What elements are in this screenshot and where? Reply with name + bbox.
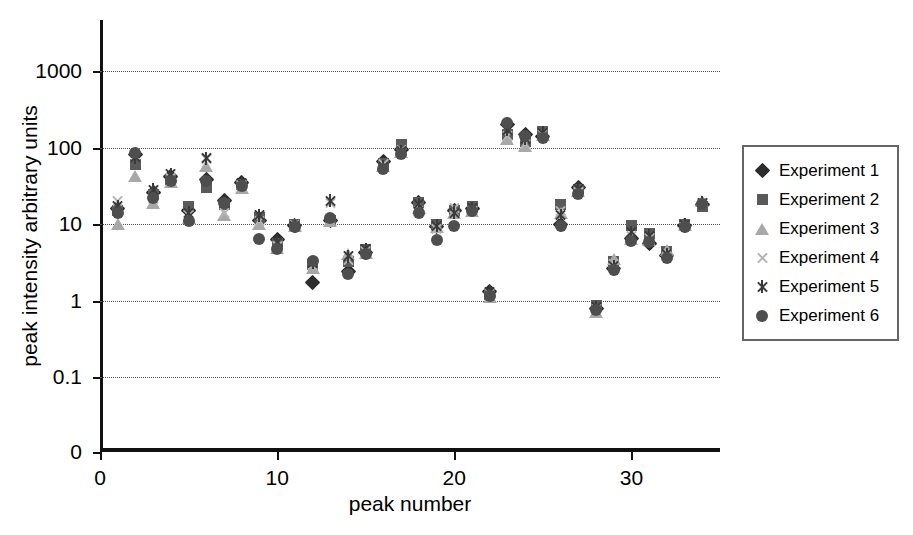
legend-label: Experiment 3 bbox=[779, 219, 879, 239]
circle-marker-icon bbox=[625, 235, 637, 247]
y-tick-label: 0.1 bbox=[0, 366, 82, 387]
legend-item-5[interactable]: Experiment 5 bbox=[752, 272, 891, 301]
gridline-y bbox=[100, 71, 720, 72]
y-tick-label: 1000 bbox=[0, 60, 82, 81]
star-marker-icon bbox=[324, 194, 337, 207]
circle-marker-icon bbox=[484, 290, 496, 302]
y-tick-mark bbox=[93, 452, 100, 454]
legend-item-2[interactable]: Experiment 2 bbox=[752, 185, 891, 214]
data-point-layer bbox=[100, 20, 720, 452]
x-tick-label: 20 bbox=[424, 467, 484, 488]
circle-marker-icon bbox=[537, 132, 549, 144]
star-marker-icon bbox=[756, 280, 769, 293]
chart-figure: peak intensity arbitrary units 100010010… bbox=[0, 0, 913, 535]
y-tick-label: 0 bbox=[0, 441, 82, 462]
triangle-marker-icon bbox=[755, 223, 769, 235]
circle-marker-icon bbox=[413, 207, 425, 219]
circle-marker-icon bbox=[572, 188, 584, 200]
star-marker-icon bbox=[430, 219, 443, 232]
legend-label: Experiment 1 bbox=[779, 161, 879, 181]
circle-marker-icon bbox=[165, 175, 177, 187]
diamond-marker-icon bbox=[754, 163, 770, 179]
circle-marker-icon bbox=[289, 221, 301, 233]
x-tick-label: 30 bbox=[601, 467, 661, 488]
circle-marker-icon bbox=[342, 268, 354, 280]
legend-swatch bbox=[752, 219, 772, 239]
diamond-marker-icon bbox=[305, 275, 321, 291]
circle-marker-icon bbox=[253, 233, 265, 245]
legend-label: Experiment 5 bbox=[779, 277, 879, 297]
y-tick-mark bbox=[93, 377, 100, 379]
circle-marker-icon bbox=[679, 221, 691, 233]
legend-swatch bbox=[752, 190, 772, 210]
x-axis-label: peak number bbox=[100, 492, 720, 516]
triangle-marker-icon bbox=[128, 170, 142, 182]
x-tick-label: 0 bbox=[70, 467, 130, 488]
circle-marker-icon bbox=[555, 220, 567, 232]
legend-swatch bbox=[752, 161, 772, 181]
y-tick-mark bbox=[93, 71, 100, 73]
gridline-y bbox=[100, 148, 720, 149]
triangle-marker-icon bbox=[111, 218, 125, 230]
star-marker-icon bbox=[200, 152, 213, 165]
y-tick-label: 10 bbox=[0, 213, 82, 234]
plot-area: 10001001010.100102030 bbox=[100, 20, 720, 452]
circle-marker-icon bbox=[183, 215, 195, 227]
y-tick-mark bbox=[93, 301, 100, 303]
square-marker-icon bbox=[757, 194, 768, 205]
circle-marker-icon bbox=[307, 255, 319, 267]
legend-swatch bbox=[752, 248, 772, 268]
x-marker-icon bbox=[756, 251, 769, 264]
legend-item-3[interactable]: Experiment 3 bbox=[752, 214, 891, 243]
x-tick-label: 10 bbox=[247, 467, 307, 488]
circle-marker-icon bbox=[661, 252, 673, 264]
legend-item-6[interactable]: Experiment 6 bbox=[752, 301, 891, 330]
circle-marker-icon bbox=[395, 148, 407, 160]
legend-label: Experiment 6 bbox=[779, 306, 879, 326]
star-marker-icon bbox=[253, 209, 266, 222]
legend-item-1[interactable]: Experiment 1 bbox=[752, 156, 891, 185]
legend-label: Experiment 2 bbox=[779, 190, 879, 210]
x-tick-mark bbox=[277, 452, 279, 460]
x-tick-mark bbox=[631, 452, 633, 460]
legend-item-4[interactable]: Experiment 4 bbox=[752, 243, 891, 272]
x-tick-mark bbox=[454, 452, 456, 460]
circle-marker-icon bbox=[756, 310, 768, 322]
y-tick-mark bbox=[93, 224, 100, 226]
star-marker-icon bbox=[342, 250, 355, 263]
gridline-y bbox=[100, 301, 720, 302]
legend-swatch bbox=[752, 306, 772, 326]
circle-marker-icon bbox=[218, 197, 230, 209]
circle-marker-icon bbox=[112, 207, 124, 219]
circle-marker-icon bbox=[608, 264, 620, 276]
circle-marker-icon bbox=[466, 205, 478, 217]
legend-label: Experiment 4 bbox=[779, 248, 879, 268]
gridline-y bbox=[100, 377, 720, 378]
y-tick-mark bbox=[93, 148, 100, 150]
circle-marker-icon bbox=[147, 192, 159, 204]
legend-swatch bbox=[752, 277, 772, 297]
y-tick-label: 100 bbox=[0, 137, 82, 158]
circle-marker-icon bbox=[590, 304, 602, 316]
circle-marker-icon bbox=[377, 163, 389, 175]
circle-marker-icon bbox=[431, 234, 443, 246]
x-tick-mark bbox=[100, 452, 102, 460]
star-marker-icon bbox=[448, 206, 461, 219]
circle-marker-icon bbox=[448, 220, 460, 232]
y-tick-label: 1 bbox=[0, 290, 82, 311]
y-axis-label: peak intensity arbitrary units bbox=[16, 20, 44, 452]
y-axis-label-container: peak intensity arbitrary units bbox=[22, 20, 50, 452]
legend: Experiment 1Experiment 2Experiment 3Expe… bbox=[742, 145, 899, 341]
